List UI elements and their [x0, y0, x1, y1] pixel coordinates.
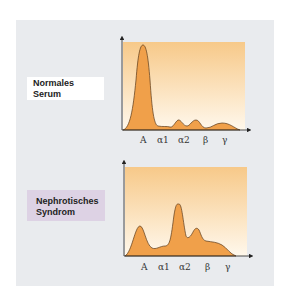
tick-a: A [139, 135, 147, 145]
electrophoresis-charts: A α1 α2 β γ A α1 α2 β γ [0, 0, 287, 294]
tick-alpha2: α2 [179, 262, 191, 272]
tick-beta: β [203, 135, 208, 145]
tick-a: A [140, 262, 148, 272]
chart-nephrotic-syndrome: A α1 α2 β γ [124, 162, 251, 272]
tick-beta: β [205, 262, 210, 272]
tick-gamma: γ [222, 135, 227, 145]
tick-alpha1: α1 [157, 135, 169, 145]
tick-alpha1: α1 [158, 262, 170, 272]
tick-alpha2: α2 [178, 135, 190, 145]
tick-gamma: γ [225, 262, 230, 272]
chart-normal-serum: A α1 α2 β γ [122, 38, 249, 145]
